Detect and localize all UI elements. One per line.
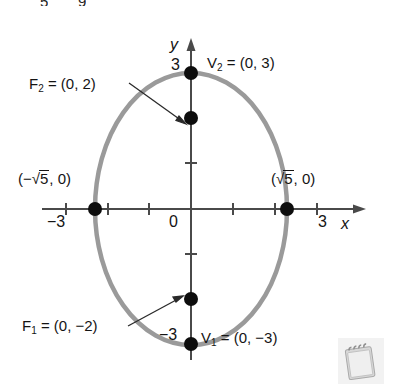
label-focus-bottom-eq: = (0, −2)	[37, 317, 98, 334]
notepad-icon	[336, 336, 386, 386]
x-tick-label-minus-3: −3	[47, 214, 65, 230]
x-axis-label: x	[341, 216, 349, 232]
cut-off-fragment-9: 9	[78, 0, 86, 6]
y-tick-label-3: 3	[171, 57, 180, 73]
arrow-to-focus-bottom-line	[128, 299, 178, 326]
label-covertex-left: (−√5, 0)	[18, 170, 71, 186]
cut-off-fragment-5: 5	[40, 0, 48, 6]
label-vertex-bottom: V1 = (0, −3)	[201, 330, 277, 348]
label-vertex-top-name: V	[207, 54, 217, 71]
label-focus-bottom: F1 = (0, −2)	[22, 318, 98, 336]
point-vertex-top	[184, 66, 198, 80]
label-vertex-bottom-name: V	[201, 329, 211, 346]
annotation-arrows	[128, 83, 186, 326]
point-covertex-left	[88, 202, 102, 216]
label-focus-bottom-name: F	[22, 317, 31, 334]
covertex-left-suffix: , 0)	[49, 170, 71, 187]
label-vertex-top-eq: = (0, 3)	[223, 54, 275, 71]
x-tick-label-3: 3	[318, 214, 327, 230]
covertex-right-radicand: 5	[283, 170, 293, 186]
y-axis-label: y	[170, 37, 178, 53]
label-vertex-bottom-eq: = (0, −3)	[217, 329, 278, 346]
point-focus-top	[184, 111, 198, 125]
point-focus-bottom	[184, 292, 198, 306]
label-covertex-right: (√5, 0)	[271, 170, 315, 186]
x-axis-arrowhead	[353, 205, 366, 214]
y-tick-label-minus-3: −3	[159, 327, 177, 343]
arrow-to-focus-top-line	[129, 83, 182, 121]
point-vertex-bottom	[184, 337, 198, 351]
label-vertex-top: V2 = (0, 3)	[207, 55, 275, 73]
covertex-left-prefix: (−	[18, 170, 32, 187]
covertex-left-radicand: 5	[39, 170, 49, 186]
label-focus-top-eq: = (0, 2)	[44, 75, 96, 92]
radical-sign-left-icon: √5	[32, 170, 50, 186]
covertex-right-suffix: , 0)	[294, 170, 316, 187]
label-focus-top: F2 = (0, 2)	[29, 76, 96, 94]
origin-label: 0	[169, 214, 178, 230]
y-axis-arrowhead	[187, 38, 196, 51]
point-covertex-right	[280, 202, 294, 216]
label-focus-top-name: F	[29, 75, 38, 92]
radical-sign-right-icon: √5	[276, 170, 294, 186]
